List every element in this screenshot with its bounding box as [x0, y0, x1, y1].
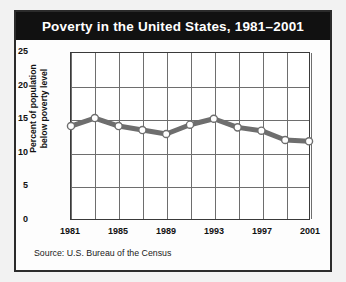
- data-point-marker: [210, 115, 217, 122]
- data-point-marker: [186, 121, 193, 128]
- data-point-marker: [115, 122, 122, 129]
- x-tick-label: 1997: [237, 226, 287, 236]
- x-tick-label: 1981: [45, 226, 95, 236]
- chart-title-bar: Poverty in the United States, 1981–2001: [16, 12, 330, 40]
- data-point-marker: [258, 127, 265, 134]
- data-point-marker: [139, 126, 146, 133]
- y-axis-label-line-1: Percent of population: [28, 39, 39, 179]
- data-point-marker: [305, 138, 312, 145]
- page-title: Poverty in the United States, 1981–2001: [42, 19, 304, 34]
- y-axis-label: Percent of population below poverty leve…: [28, 39, 49, 179]
- plot-area: [70, 52, 310, 220]
- x-tick-label: 2001: [285, 226, 335, 236]
- y-tick-label: 5: [0, 180, 28, 190]
- plot-area-wrapper: Percent of population below poverty leve…: [16, 40, 330, 240]
- y-tick-label: 25: [0, 46, 28, 56]
- x-tick-label: 1989: [141, 226, 191, 236]
- x-tick-label: 1985: [93, 226, 143, 236]
- data-point-marker: [234, 124, 241, 131]
- source-note: Source: U.S. Bureau of the Census: [34, 248, 171, 258]
- chart-card: Poverty in the United States, 1981–2001 …: [14, 10, 332, 272]
- poverty-rate-series: [71, 53, 309, 219]
- gridline-vertical: [311, 53, 312, 219]
- data-point-marker: [91, 115, 98, 122]
- data-point-marker: [67, 122, 74, 129]
- x-tick-label: 1993: [189, 226, 239, 236]
- data-point-marker: [163, 130, 170, 137]
- y-axis-label-line-2: below poverty level: [38, 39, 49, 179]
- data-point-marker: [282, 136, 289, 143]
- y-tick-label: 20: [0, 80, 28, 90]
- y-tick-label: 10: [0, 147, 28, 157]
- y-tick-label: 15: [0, 113, 28, 123]
- y-tick-label: 0: [0, 214, 28, 224]
